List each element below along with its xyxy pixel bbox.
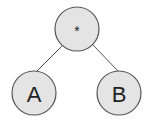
node-a: A: [12, 71, 56, 115]
tree-diagram: * A B: [0, 0, 156, 124]
node-b-label: B: [112, 82, 127, 107]
node-a-label: A: [27, 82, 42, 107]
edge-root-a: [37, 46, 62, 71]
edge-root-b: [93, 45, 118, 71]
node-root: *: [55, 7, 99, 51]
node-root-label: *: [74, 23, 80, 39]
node-b: B: [97, 71, 141, 115]
